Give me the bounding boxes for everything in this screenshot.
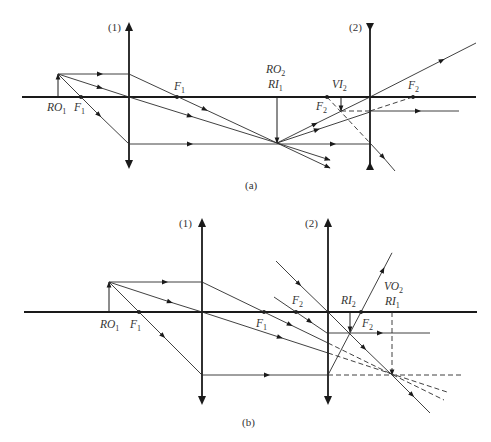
ray-ri1-to-lens2-center	[277, 97, 370, 143]
virtual-extension-to-f2-right	[370, 97, 413, 111]
ray-diverged-lower	[370, 143, 395, 171]
two-lens-ray-diagram: (1) (2) RO1 F1 F1 RO2 RI1 VI2 F2 F2 (a)	[0, 0, 491, 442]
label-f1-left: F1	[73, 101, 85, 116]
ray-parallel-continued	[277, 143, 330, 168]
ray-chief-in	[58, 74, 129, 97]
ray-lens2-chief-continued	[392, 375, 430, 413]
ray-parallel-refracted	[129, 74, 277, 143]
lens-arrow-inward-top-icon	[366, 23, 374, 31]
ray-through-lens2-center	[370, 43, 476, 97]
lens-arrow-down-icon	[125, 160, 133, 169]
label-ri1: RI1	[384, 295, 400, 310]
lens-arrow-down-icon	[198, 396, 206, 405]
label-f2-left: F2	[291, 294, 303, 309]
label-ri2: RI2	[340, 294, 356, 309]
lens-1-converging	[125, 22, 133, 169]
lens-arrow-up-icon	[125, 22, 133, 31]
label-ro1: RO1	[99, 318, 119, 333]
label-vo2: VO2	[384, 280, 403, 295]
ray-lens2-chief-out	[328, 312, 392, 375]
label-ro2: RO2	[265, 63, 285, 78]
light-rays	[109, 253, 462, 413]
label-f1-right: F1	[173, 80, 185, 95]
virtual-extension-parallel	[328, 343, 444, 400]
lens-arrow-up-icon	[324, 218, 332, 227]
ray-chief-out	[129, 97, 277, 143]
lens-arrow-up-icon	[198, 218, 206, 227]
ray-through-f2-right	[328, 253, 392, 375]
lens-2-label: (2)	[349, 21, 362, 34]
panel-a: (1) (2) RO1 F1 F1 RO2 RI1 VI2 F2 F2 (a)	[22, 21, 476, 192]
lens-1-label: (1)	[108, 21, 121, 34]
label-f2-left: F2	[315, 100, 327, 115]
panel-a-caption: (a)	[245, 179, 258, 192]
lens-arrow-down-icon	[324, 396, 332, 405]
label-ro1: RO1	[46, 101, 66, 116]
ray-focal-in	[58, 74, 129, 144]
panel-b: (1) (2) RO1 F1 F1 F2 RI2 F2 VO2 RI1 (b)	[24, 217, 477, 429]
ray-chief-in	[109, 282, 202, 312]
lens-arrow-inward-bottom-icon	[366, 162, 374, 170]
lens-1-label: (1)	[179, 217, 192, 230]
lens-2-label: (2)	[305, 217, 318, 230]
label-vi2: VI2	[332, 78, 347, 93]
label-ri1: RI1	[267, 78, 283, 93]
ray-focal-in	[109, 282, 202, 375]
ray-chief-continued	[277, 143, 330, 160]
label-f1-left: F1	[129, 318, 141, 333]
ray-chief-out	[202, 312, 328, 353]
virtual-extension-f2-left	[327, 97, 370, 143]
label-f2-right: F2	[407, 79, 419, 94]
panel-b-caption: (b)	[242, 416, 255, 429]
label-f2-right: F2	[361, 317, 373, 332]
